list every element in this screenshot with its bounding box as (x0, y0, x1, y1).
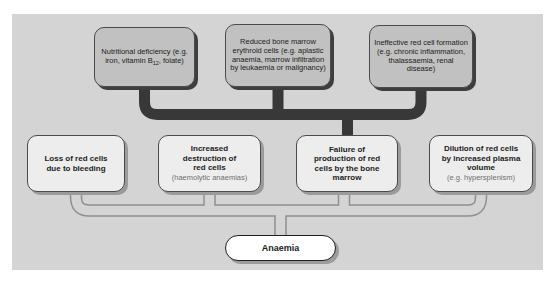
tube-bus-inner (76, 186, 481, 211)
cause-box-nutritional-deficiency: Nutritional deficiency (e.g. iron, vitam… (94, 27, 195, 87)
mechanism-box-increased-destruction-label: Increased destruction of red cells (180, 144, 238, 172)
cause-box-reduced-bone-marrow-label: Reduced bone marrow erythroid cells (e.g… (230, 38, 326, 73)
cause-box-ineffective-formation-label: Ineffective red cell formation (e.g. chr… (374, 39, 468, 74)
tube-connector-fill (76, 186, 481, 238)
mechanism-box-production-failure: Failure of production of red cells by th… (296, 135, 398, 192)
figure-page: Nutritional deficiency (e.g. iron, vitam… (0, 0, 555, 287)
mechanism-box-production-failure-content: Failure of production of red cells by th… (309, 145, 385, 183)
mechanism-box-dilution-label: Dilution of red cells by increased plasm… (439, 144, 523, 172)
mechanism-box-increased-destruction: Increased destruction of red cells (haem… (158, 135, 261, 192)
cause-box-ineffective-formation: Ineffective red cell formation (e.g. chr… (369, 25, 473, 88)
cause-box-reduced-bone-marrow: Reduced bone marrow erythroid cells (e.g… (225, 24, 331, 87)
mechanism-box-dilution-content: Dilution of red cells by increased plasm… (439, 144, 523, 182)
result-box-anaemia-label: Anaemia (262, 243, 300, 253)
mechanism-box-increased-destruction-note: (haemolytic anaemias) (172, 174, 247, 183)
mechanism-box-blood-loss: Loss of red cells due to bleeding (27, 135, 125, 192)
label-text: , folate) (159, 56, 184, 65)
mechanism-box-dilution: Dilution of red cells by increased plasm… (429, 135, 533, 192)
b12-subscript: 12 (153, 60, 159, 66)
mechanism-box-production-failure-label: Failure of production of red cells by th… (309, 145, 385, 183)
dark-connector (145, 80, 422, 140)
mechanism-box-blood-loss-label: Loss of red cells due to bleeding (37, 154, 115, 173)
mechanism-box-increased-destruction-content: Increased destruction of red cells (haem… (172, 144, 247, 182)
result-box-anaemia: Anaemia (225, 235, 336, 261)
cause-box-nutritional-deficiency-label: Nutritional deficiency (e.g. iron, vitam… (99, 48, 190, 65)
mechanism-box-dilution-note: (e.g. hypersplenism) (439, 174, 523, 183)
mechanism-box-blood-loss-content: Loss of red cells due to bleeding (37, 154, 115, 173)
